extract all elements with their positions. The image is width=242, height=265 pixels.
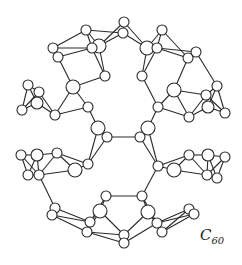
carbon-atom bbox=[47, 210, 57, 220]
carbon-atom bbox=[167, 163, 181, 177]
bond bbox=[196, 52, 217, 86]
bond bbox=[52, 215, 90, 222]
carbon-atom bbox=[202, 149, 214, 161]
carbon-atom bbox=[83, 102, 93, 112]
carbon-atom bbox=[137, 191, 147, 201]
carbon-atom bbox=[50, 110, 60, 120]
carbon-atom bbox=[202, 170, 212, 180]
carbon-atom bbox=[82, 227, 92, 237]
bond bbox=[55, 208, 90, 222]
carbon-atom bbox=[87, 43, 97, 53]
carbon-atom bbox=[141, 205, 155, 219]
carbon-atom bbox=[101, 191, 111, 201]
carbon-atom bbox=[16, 150, 26, 160]
carbon-atom bbox=[17, 105, 27, 115]
carbon-atom bbox=[201, 90, 211, 100]
carbon-atom bbox=[167, 83, 181, 97]
carbon-atom bbox=[91, 121, 105, 135]
carbon-atom bbox=[119, 238, 129, 248]
carbon-atom bbox=[220, 152, 230, 162]
carbon-atom bbox=[153, 102, 163, 112]
carbon-atom bbox=[202, 101, 214, 113]
carbon-atom bbox=[135, 132, 145, 142]
carbon-atom bbox=[66, 80, 80, 94]
carbon-atom bbox=[184, 150, 194, 160]
carbon-atom bbox=[34, 87, 44, 97]
carbon-atom bbox=[85, 217, 95, 227]
atoms bbox=[16, 17, 230, 248]
carbon-atom bbox=[157, 25, 167, 35]
carbon-atom bbox=[184, 112, 194, 122]
carbon-atom bbox=[83, 159, 93, 169]
carbon-atom bbox=[34, 170, 44, 180]
label-main: C bbox=[200, 226, 211, 244]
carbon-atom bbox=[93, 204, 107, 218]
carbon-atom bbox=[52, 148, 62, 158]
carbon-atom bbox=[53, 52, 63, 62]
carbon-atom bbox=[23, 170, 33, 180]
carbon-atom bbox=[212, 81, 222, 91]
bond bbox=[86, 30, 123, 33]
carbon-atom bbox=[102, 132, 112, 142]
carbon-atom bbox=[23, 80, 33, 90]
carbon-atom bbox=[137, 71, 147, 81]
carbon-atom bbox=[189, 209, 199, 219]
carbon-atom bbox=[153, 161, 163, 171]
carbon-atom bbox=[118, 28, 128, 38]
bond bbox=[52, 215, 87, 232]
carbon-atom bbox=[152, 43, 162, 53]
carbon-atom bbox=[68, 163, 82, 177]
carbon-atom bbox=[31, 149, 43, 161]
molecule-label: C60 bbox=[200, 226, 224, 246]
carbon-atom bbox=[157, 227, 167, 237]
carbon-atom bbox=[119, 17, 129, 27]
carbon-atom bbox=[100, 71, 110, 81]
carbon-atom bbox=[212, 173, 222, 183]
carbon-atom bbox=[152, 218, 162, 228]
carbon-atom bbox=[183, 53, 193, 63]
carbon-atom bbox=[31, 97, 43, 109]
label-subscript: 60 bbox=[211, 235, 224, 246]
carbon-atom bbox=[220, 108, 230, 118]
carbon-atom bbox=[81, 25, 91, 35]
carbon-atom bbox=[48, 43, 58, 53]
bond bbox=[53, 30, 86, 48]
